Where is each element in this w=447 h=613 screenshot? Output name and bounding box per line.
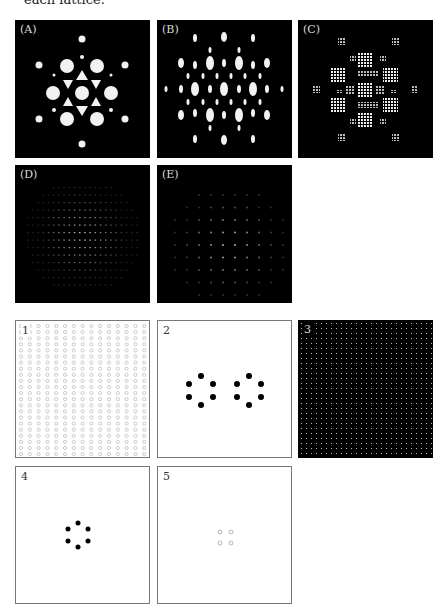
diffraction-panel-a: (A) [15, 20, 150, 158]
lattice-5 [158, 467, 292, 604]
lattice-1 [16, 321, 150, 458]
panel-label: (D) [20, 168, 37, 181]
real-space-panel-4: 4 [15, 466, 150, 604]
diffraction-panel-e: (E) [157, 165, 292, 303]
panel-label: 5 [163, 470, 170, 483]
panel-label: 4 [21, 470, 28, 483]
pattern-c [298, 20, 433, 158]
pattern-b [157, 20, 292, 158]
pattern-d [15, 165, 150, 303]
real-space-panel-5: 5 [157, 466, 292, 604]
lattice-4 [16, 467, 150, 604]
diffraction-panel-c: (C) [298, 20, 433, 158]
pattern-e [157, 165, 292, 303]
real-space-panel-3: 3 [298, 320, 433, 458]
panel-label: (C) [303, 23, 320, 36]
panel-label: (E) [162, 168, 179, 181]
lattice-3 [298, 320, 433, 458]
lattice-2 [158, 321, 292, 458]
pattern-a [15, 20, 150, 158]
panel-label: 3 [303, 323, 312, 336]
panel-label: (B) [162, 23, 179, 36]
panel-label: (A) [20, 23, 37, 36]
real-space-panel-1: 1 [15, 320, 150, 458]
real-space-panel-2: 2 [157, 320, 292, 458]
diffraction-panel-b: (B) [157, 20, 292, 158]
diffraction-panel-d: (D) [15, 165, 150, 303]
panel-label: 1 [21, 324, 30, 337]
caption-text: each lattice. [24, 0, 105, 7]
panel-label: 2 [163, 324, 170, 337]
